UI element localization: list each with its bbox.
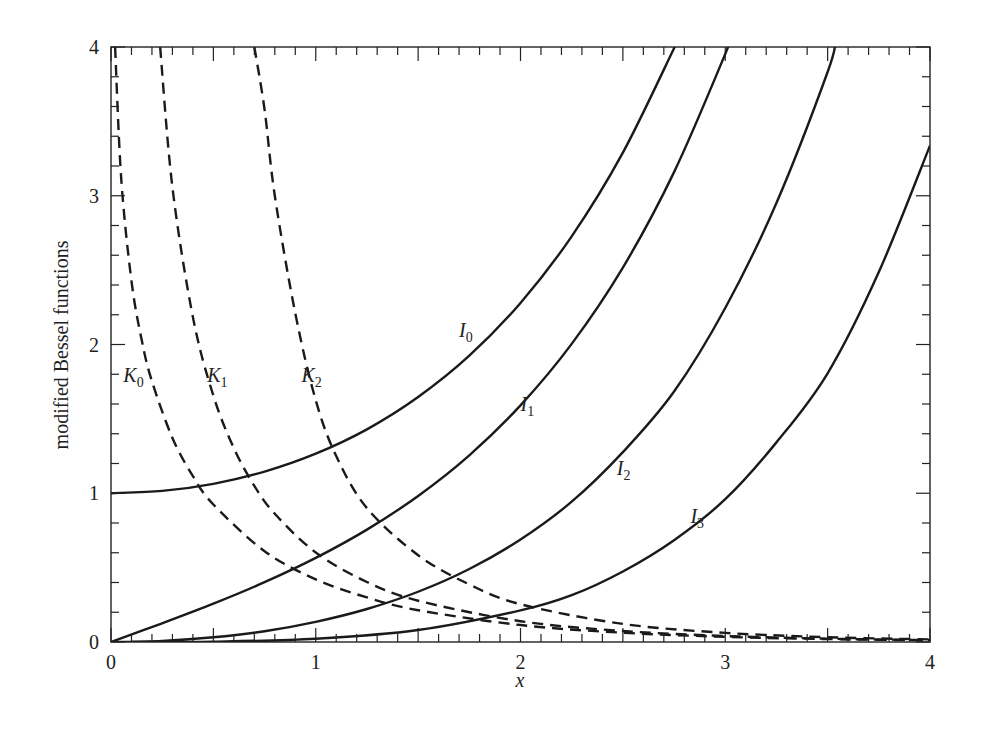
x-tick-label: 4: [925, 651, 935, 673]
curve-k0: [115, 47, 930, 640]
y-tick-label: 2: [89, 334, 99, 356]
x-axis-label: x: [515, 669, 525, 691]
y-tick-label: 0: [89, 631, 99, 653]
plot-frame: [111, 47, 930, 642]
y-tick-label: 4: [89, 36, 99, 58]
label-i2: I2: [616, 457, 631, 483]
y-tick-label: 1: [89, 482, 99, 504]
x-tick-label: 0: [106, 651, 116, 673]
label-i1: I1: [520, 393, 535, 419]
curve-i2: [111, 40, 836, 642]
x-tick-label: 3: [720, 651, 730, 673]
curve-k2: [254, 47, 930, 639]
y-tick-label: 3: [89, 185, 99, 207]
bessel-chart: 0123401234 I0I1I2I3K0K1K2 x modified Bes…: [0, 0, 982, 749]
y-axis-label: modified Bessel functions: [50, 240, 72, 449]
axis-ticks: 0123401234: [89, 36, 935, 673]
curve-i0: [111, 37, 679, 493]
label-i0: I0: [458, 319, 473, 345]
plot-curves: [111, 37, 930, 642]
x-tick-label: 1: [311, 651, 321, 673]
curve-i1: [111, 39, 731, 642]
label-k0: K0: [122, 364, 143, 390]
curve-k1: [160, 47, 930, 640]
